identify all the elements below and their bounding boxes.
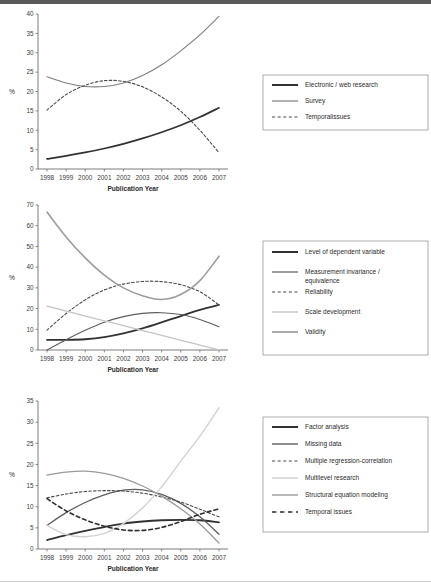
series-line-3 [47,491,219,517]
y-tick-label: 20 [26,461,34,468]
legend-label-5: Structural equation modeling [305,491,388,499]
x-tick-label: 1998 [40,355,55,362]
chart-panel-measurement-topics: 010203040506070%199819992000200120022003… [0,196,431,391]
y-tick-label: 10 [26,503,34,510]
y-tick-label: 40 [26,10,34,17]
x-tick-label: 2007 [212,554,227,561]
y-tick-label: 0 [30,165,34,172]
x-tick-label: 2006 [193,554,208,561]
y-axis-label: % [9,471,15,478]
bottom-divider [0,581,431,582]
chart-panel-research-methods: 0510152025303540%19981999200020012002200… [0,4,431,196]
x-tick-label: 2004 [155,174,170,181]
y-tick-label: 20 [26,305,34,312]
series-line-6 [47,499,219,531]
x-tick-label: 2007 [212,355,227,362]
x-tick-label: 2005 [174,174,189,181]
legend-label-1: Level of dependent variable [305,248,385,256]
legend-label-3: Temporalissues [305,113,351,121]
chart-svg-3: 05101520253035%1998199920002001200220032… [0,391,431,581]
y-tick-label: 5 [30,524,34,531]
x-axis-title: Publication Year [107,366,159,373]
series-line-2 [47,16,219,87]
y-tick-label: 0 [30,545,34,552]
x-tick-label: 1998 [40,174,55,181]
y-tick-label: 0 [30,346,34,353]
x-tick-label: 2001 [97,554,112,561]
y-axis-label: % [9,88,15,95]
x-tick-label: 2002 [116,355,131,362]
y-tick-label: 30 [26,418,34,425]
x-tick-label: 2003 [135,554,150,561]
y-tick-label: 25 [26,440,34,447]
y-tick-label: 5 [30,146,34,153]
y-tick-label: 30 [26,49,34,56]
x-tick-label: 2004 [155,554,170,561]
x-tick-label: 2005 [174,355,189,362]
y-tick-label: 35 [26,397,34,404]
x-tick-label: 2003 [135,355,150,362]
legend-label-6: Temporal issues [305,508,353,516]
x-tick-label: 2004 [155,355,170,362]
legend-label-2: Survey [305,97,326,105]
y-axis-label: % [9,274,15,281]
y-tick-label: 15 [26,482,34,489]
chart-panel-analysis-techniques: 05101520253035%1998199920002001200220032… [0,391,431,581]
series-line-2 [47,489,219,534]
x-axis-title: Publication Year [107,185,159,192]
y-tick-label: 10 [26,326,34,333]
legend-label-1: Factor analysis [305,423,349,431]
x-tick-label: 2006 [193,174,208,181]
y-tick-label: 35 [26,30,34,37]
x-tick-label: 2000 [78,174,93,181]
x-tick-label: 2001 [97,174,112,181]
legend-label-2: Missing data [305,440,342,448]
y-tick-label: 15 [26,107,34,114]
legend-label-5: Validity [305,328,326,336]
x-tick-label: 2002 [116,174,131,181]
x-tick-label: 2005 [174,554,189,561]
legend-label-3: Multiple regression-correlation [305,457,392,465]
x-tick-label: 2003 [135,174,150,181]
y-tick-label: 50 [26,243,34,250]
plot-area-2: 010203040506070%199819992000200120022003… [9,201,428,373]
x-tick-label: 2006 [193,355,208,362]
series-line-1 [47,305,219,340]
y-tick-label: 40 [26,263,34,270]
legend-label-3: Reliability [305,288,334,296]
x-tick-label: 2007 [212,174,227,181]
legend-label-4: Scale development [305,308,360,316]
series-line-4 [47,408,219,537]
x-tick-label: 1999 [59,174,74,181]
x-tick-label: 2002 [116,554,131,561]
series-line-5 [47,471,219,543]
series-line-1 [47,108,219,159]
legend-label-2-line2: equivalence [305,277,340,285]
x-tick-label: 2001 [97,355,112,362]
series-line-5 [47,212,219,299]
x-tick-label: 1999 [59,355,74,362]
plot-area-3: 05101520253035%1998199920002001200220032… [9,397,428,572]
y-tick-label: 10 [26,127,34,134]
x-tick-label: 1998 [40,554,55,561]
legend-label-2: Measurement invariance / [305,268,380,275]
y-tick-label: 30 [26,284,34,291]
x-tick-label: 1999 [59,554,74,561]
chart-svg-1: 0510152025303540%19981999200020012002200… [0,4,431,196]
x-tick-label: 2000 [78,355,93,362]
legend-label-1: Electronic / web research [305,81,378,88]
y-tick-label: 60 [26,222,34,229]
series-line-3 [47,281,219,330]
y-tick-label: 70 [26,201,34,208]
y-tick-label: 25 [26,68,34,75]
legend-box-2 [263,241,428,355]
legend-label-4: Multilevel research [305,474,360,481]
x-tick-label: 2000 [78,554,93,561]
chart-svg-2: 010203040506070%199819992000200120022003… [0,196,431,391]
series-line-1 [47,520,219,540]
plot-area-1: 0510152025303540%19981999200020012002200… [9,10,428,192]
x-axis-title: Publication Year [107,565,159,572]
y-tick-label: 20 [26,88,34,95]
